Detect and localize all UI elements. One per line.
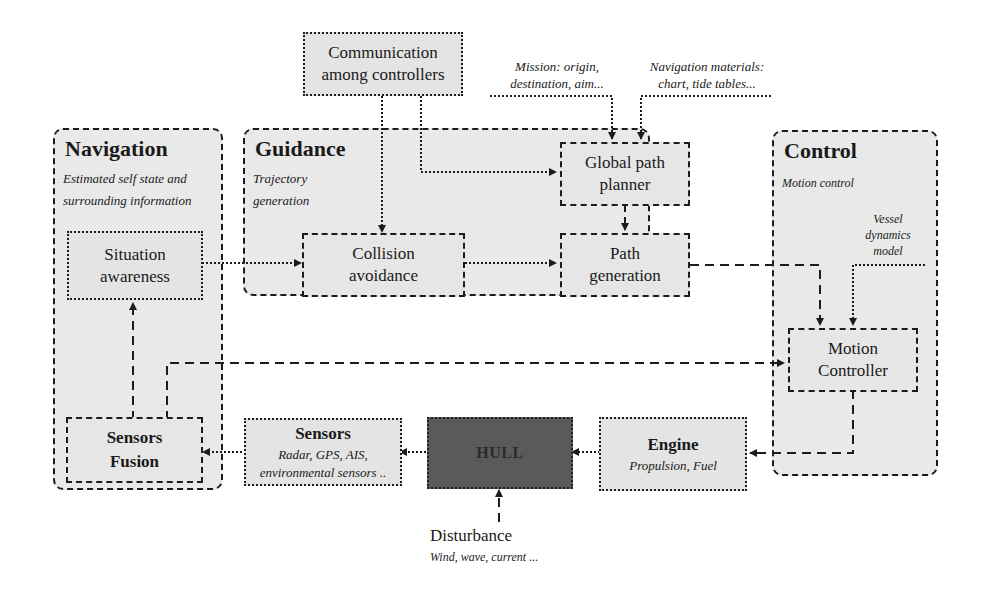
vessel-dynamics-note: Vessel dynamics model xyxy=(858,211,918,259)
hull-block: HULL xyxy=(427,417,573,489)
disturbance-subtitle: Wind, wave, current ... xyxy=(430,549,538,566)
sensors-fusion-block: Sensors Fusion xyxy=(66,417,203,483)
engine-block: Engine Propulsion, Fuel xyxy=(599,417,747,491)
communication-block: Communication among controllers xyxy=(303,32,463,96)
sensors-block: Sensors Radar, GPS, AIS, environmental s… xyxy=(244,418,402,486)
path-generation-block: Path generation xyxy=(560,233,690,297)
situation-awareness-block: Situation awareness xyxy=(67,231,203,300)
motion-controller-block: Motion Controller xyxy=(788,328,918,392)
navigation-materials-note: Navigation materials: chart, tide tables… xyxy=(632,58,782,92)
global-path-planner-block: Global path planner xyxy=(560,142,690,206)
collision-avoidance-block: Collision avoidance xyxy=(302,233,465,297)
disturbance-label: Disturbance xyxy=(430,526,512,546)
mission-note: Mission: origin, destination, aim... xyxy=(492,58,622,92)
